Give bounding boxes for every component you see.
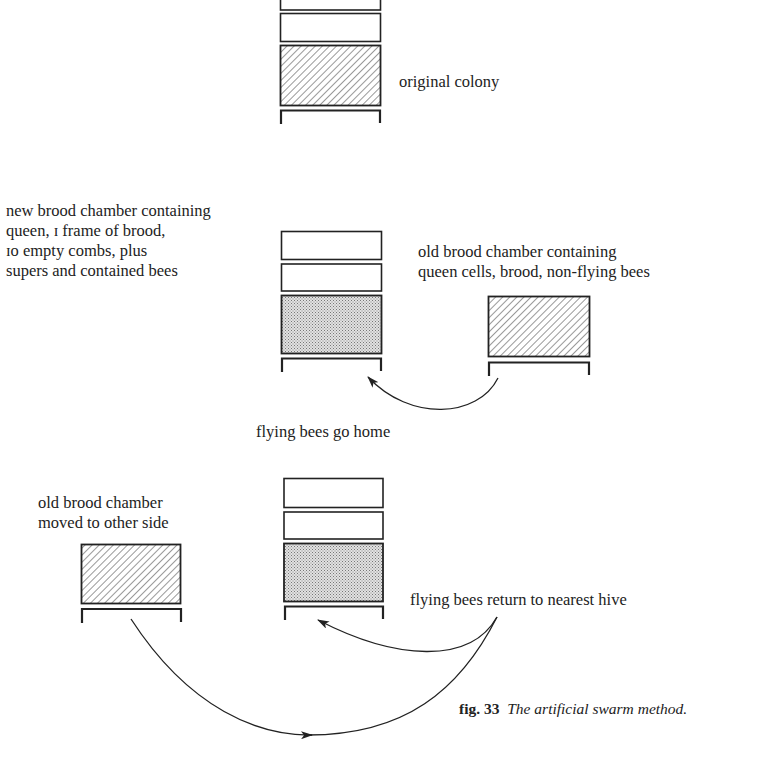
brood-chamber-stippled: [284, 544, 383, 602]
label-new-brood-chamber-line3: ɪo empty combs, plus: [6, 241, 147, 260]
hive-stand: [282, 359, 381, 373]
super-box: [284, 479, 383, 508]
figure-caption: fig. 33 The artificial swarm method.: [459, 700, 687, 718]
label-flying-bees-return: flying bees return to nearest hive: [410, 590, 627, 609]
arrow-flying-bees-go-home: [368, 377, 498, 409]
label-original-colony: original colony: [399, 72, 499, 91]
label-old-brood-chamber-line1: old brood chamber containing: [418, 242, 616, 261]
hive-stand: [281, 111, 380, 125]
label-new-brood-chamber-line1: new brood chamber containing: [6, 201, 211, 220]
label-new-brood-chamber-line2: queen, ɪ frame of brood,: [6, 221, 165, 240]
super-box: [282, 232, 382, 260]
label-old-brood-chamber-line2: queen cells, brood, non-flying bees: [418, 262, 650, 281]
brood-chamber-hatched: [281, 46, 381, 106]
super-box: [282, 264, 382, 291]
arrow-left-hive-to-right: [131, 619, 312, 735]
label-new-brood-chamber-line4: supers and contained bees: [6, 261, 178, 280]
brood-chamber-hatched: [82, 545, 181, 604]
hive-new-brood-chamber: [282, 232, 382, 373]
hive-stand: [489, 363, 589, 377]
super-box: [281, 14, 381, 42]
hive-new-brood-chamber-stage3: [284, 479, 383, 621]
label-old-moved-line1: old brood chamber: [38, 493, 163, 512]
label-old-moved-line2: moved to other side: [38, 513, 169, 532]
brood-chamber-hatched: [489, 297, 590, 357]
hive-original-colony: [281, 0, 381, 124]
artificial-swarm-diagram: [0, 0, 782, 758]
brood-chamber-stippled: [282, 296, 382, 354]
hive-old-brood-chamber: [489, 297, 590, 377]
hive-old-brood-chamber-moved: [82, 545, 182, 624]
label-flying-bees-go-home: flying bees go home: [256, 422, 390, 441]
super-box: [281, 0, 381, 10]
super-box: [284, 512, 383, 539]
figure-title: The artificial swarm method.: [507, 700, 687, 717]
figure-number: fig. 33: [459, 700, 499, 717]
hive-stand: [285, 607, 383, 621]
arrow-return-to-new-hive: [318, 617, 497, 652]
